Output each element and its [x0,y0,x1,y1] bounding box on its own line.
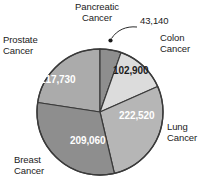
slice-label-lung: Lung Cancer [167,122,221,143]
slice-value-pancreatic: 43,140 [140,16,194,27]
slice-value-prostate: 217,730 [40,74,75,85]
slice-label-pancreatic: Pancreatic Cancer [61,2,133,23]
slice-label-breast: Breast Cancer [14,155,76,176]
pancreatic-marker-dot [108,38,112,42]
slice-label-colon: Colon Cancer [160,33,220,54]
slice-value-breast: 209,060 [70,135,105,146]
slice-value-lung: 222,520 [119,110,154,121]
slice-label-prostate: Prostate Cancer [3,35,69,56]
pie-chart-figure: Pancreatic Cancer 43,140 Colon Cancer Lu… [0,0,223,194]
pancreatic-leader-line [112,27,138,39]
slice-value-colon: 102,900 [113,65,148,76]
